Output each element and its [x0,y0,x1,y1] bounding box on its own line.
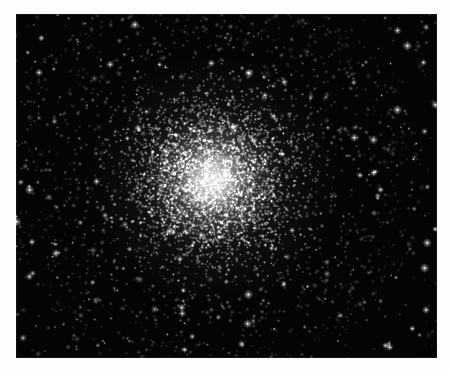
photo-page [0,0,450,375]
star-field-canvas [16,14,437,358]
astrophoto [16,14,437,358]
